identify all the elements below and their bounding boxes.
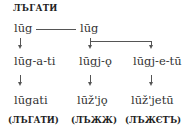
arrow-down-icon <box>88 45 92 49</box>
out-center: lūž'jǫ <box>77 95 108 107</box>
out-left: lūgati <box>14 95 48 107</box>
out-right: lūž'jetū <box>131 95 174 107</box>
arrow-down-icon <box>149 45 153 49</box>
mid-center: lūgj-ǫ <box>79 56 112 68</box>
arrow-down-icon <box>18 45 22 49</box>
branch-line <box>90 41 152 42</box>
diagram-title: ЛЪГАТИ <box>13 4 58 13</box>
root-left: lūg <box>14 23 32 35</box>
root-right: lūg <box>80 23 98 35</box>
gloss-right: (ЛЪЖЄТЪ) <box>125 116 181 125</box>
gloss-center: (ЛЪЖЖ) <box>71 116 117 125</box>
arrow-down-icon <box>18 82 22 86</box>
connector-line <box>36 29 76 30</box>
mid-left: lūg-a-ti <box>14 56 55 68</box>
mid-right: lūgj-e-tū <box>133 56 182 68</box>
gloss-left: (ЛЪГАТИ) <box>8 116 59 125</box>
arrow-down-icon <box>149 82 153 86</box>
arrow-down-icon <box>88 82 92 86</box>
